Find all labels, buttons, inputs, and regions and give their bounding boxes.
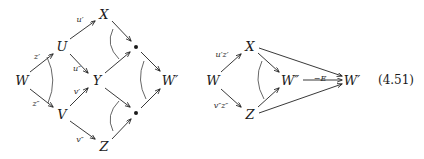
arc-dot-lower: [110, 101, 119, 131]
node-X-right: X: [245, 40, 254, 53]
edge-label-zdoubleprime: z″: [32, 100, 39, 108]
arc-Wprime: [140, 61, 146, 99]
arrow-Z-to-Wdoubleprime: [258, 88, 279, 107]
node-X-left: X: [99, 8, 108, 21]
arrow-Z-to-Wprime-right: [259, 84, 342, 113]
arrow-X-to-dot-upper: [112, 21, 131, 41]
node-Z-right: Z: [245, 108, 254, 121]
edge-label-udoubleprime: u″: [73, 65, 81, 73]
edge-label-vdoubleprime-zdoubleprime: v″z″: [214, 102, 229, 110]
arrow-X-to-Wprime-right: [259, 48, 342, 76]
node-Wprime-right: W′: [344, 74, 360, 87]
node-dot-upper: [134, 45, 138, 49]
node-U: U: [57, 40, 68, 53]
node-Y: Y: [93, 74, 102, 87]
edge-label-vprime: v′: [74, 88, 80, 96]
node-V: V: [57, 108, 66, 121]
arc-dot-upper: [110, 29, 119, 59]
arc-W: [47, 57, 53, 103]
node-W-right: W: [206, 74, 219, 87]
figure-commutative-diagram: W U V X Y Z W′ z′ z″ u′ u″ v′ v″ W X Z W…: [0, 0, 424, 159]
arrow-dot-lower-to-Wprime: [141, 89, 160, 108]
node-Wdoubleprime: W″: [281, 74, 299, 87]
node-Wprime-left: W′: [162, 74, 178, 87]
node-Z-left: Z: [99, 140, 108, 153]
edge-label-vdoubleprime: v″: [76, 136, 84, 144]
edge-label-minus-E: −E: [314, 75, 327, 83]
edge-label-uprime: u′: [77, 16, 84, 24]
node-W-left: W: [15, 74, 28, 87]
edge-label-zprime: z′: [34, 53, 40, 61]
arrow-Y-to-dot-lower: [105, 88, 130, 107]
equation-number: (4.51): [378, 74, 414, 86]
node-dot-lower: [134, 111, 138, 115]
arrow-Z-to-dot-lower: [112, 119, 131, 139]
arc-right-middle: [258, 61, 264, 99]
arrow-Y-to-dot-upper: [105, 52, 130, 73]
edge-label-uprime-zprime: u′z′: [216, 51, 229, 59]
